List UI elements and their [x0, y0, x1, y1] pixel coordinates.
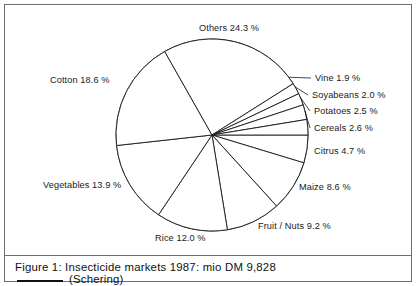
pie-label-vegetables: Vegetables 13.9 % [43, 180, 121, 191]
caption-source-text: (Schering) [69, 273, 124, 285]
caption-title: Figure 1: Insecticide markets 1987: mio … [15, 261, 407, 273]
pie-label-vine: Vine 1.9 % [315, 73, 360, 84]
caption-rule-icon [17, 280, 63, 282]
pie-label-maize: Maize 8.6 % [299, 182, 351, 193]
pie-label-rice: Rice 12.0 % [155, 233, 206, 244]
pie-chart-area: Others 24.3 % Cotton 18.6 % Vine 1.9 % S… [5, 5, 411, 254]
pie-label-cereals: Cereals 2.6 % [314, 123, 373, 134]
pie-label-fruit-nuts: Fruit / Nuts 9.2 % [258, 221, 331, 232]
pie-label-soyabeans: Soyabeans 2.0 % [312, 90, 386, 101]
pie-label-citrus: Citrus 4.7 % [314, 146, 365, 157]
figure-caption: Figure 1: Insecticide markets 1987: mio … [15, 261, 407, 285]
figure-page: Others 24.3 % Cotton 18.6 % Vine 1.9 % S… [0, 0, 418, 286]
pie-label-cotton: Cotton 18.6 % [50, 75, 110, 86]
caption-source: (Schering) [15, 273, 407, 285]
figure-frame: Others 24.3 % Cotton 18.6 % Vine 1.9 % S… [4, 4, 412, 282]
pie-leader-vine [289, 77, 311, 78]
pie-label-potatoes: Potatoes 2.5 % [314, 106, 378, 117]
pie-label-others: Others 24.3 % [199, 23, 259, 34]
caption-divider [5, 255, 411, 256]
